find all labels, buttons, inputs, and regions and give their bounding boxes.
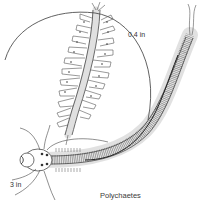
scale-label-large-worm: 3 in [10, 181, 21, 188]
scale-label-small-worm: 0.4 in [128, 31, 145, 38]
worm-drawing [0, 0, 202, 208]
small-worm [57, 2, 115, 145]
figure-caption: Polychaetes [100, 192, 141, 200]
polychaete-illustration: 0.4 in 3 in Polychaetes [0, 0, 202, 208]
